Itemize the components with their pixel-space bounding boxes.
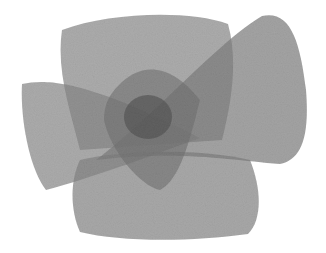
watercolor-shapes xyxy=(0,0,326,253)
dark-core-shape xyxy=(124,95,172,139)
watercolor-artwork xyxy=(0,0,326,253)
